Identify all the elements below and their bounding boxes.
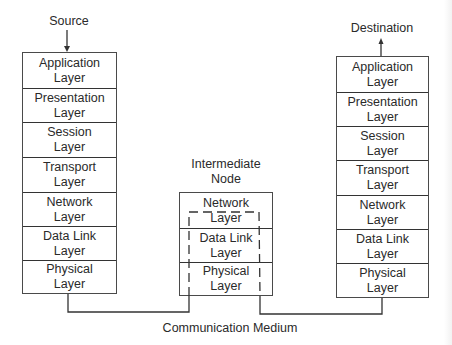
medium-line-source-to-intermediate [68,294,189,312]
connector-lines [0,0,452,345]
destination-up-arrow-icon [379,38,384,56]
medium-line-intermediate-to-destination [260,296,382,314]
source-down-arrow-icon [64,30,70,52]
intermediate-relay-dashed-path [189,212,260,296]
